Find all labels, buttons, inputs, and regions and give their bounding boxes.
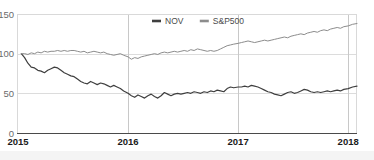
y-tick-label-100: 100 — [0, 48, 14, 59]
legend-label-sp500: S&P500 — [213, 16, 244, 26]
chart-background — [0, 0, 374, 160]
x-tick-label-2017: 2017 — [228, 136, 249, 147]
x-tick-label-2016: 2016 — [117, 136, 138, 147]
x-tick-label-2015: 2015 — [7, 136, 29, 147]
y-tick-label-150: 150 — [0, 9, 14, 20]
chart-canvas: 050100150 2015201620172018 NOVS&P500 — [0, 0, 374, 160]
y-tick-label-50: 50 — [3, 88, 14, 99]
stock-performance-chart: 050100150 2015201620172018 NOVS&P500 — [0, 0, 374, 160]
bottom-strip — [0, 151, 374, 160]
legend-label-nov: NOV — [165, 16, 184, 26]
x-tick-label-2018: 2018 — [338, 136, 359, 147]
